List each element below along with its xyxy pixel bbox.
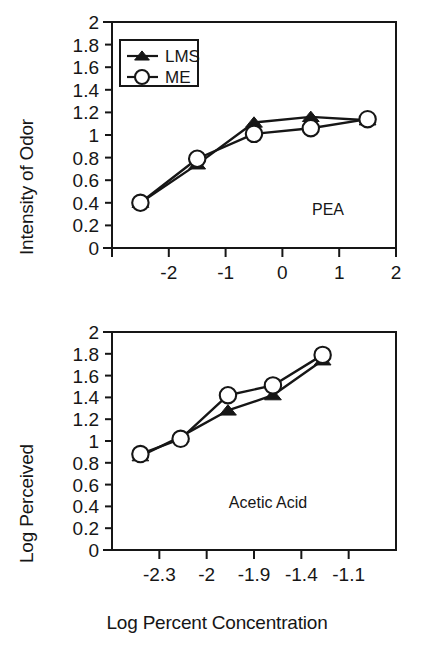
x-tick-label: -1 [217, 262, 234, 283]
y-tick-label: 1.6 [73, 57, 99, 78]
legend-label: ME [165, 68, 191, 87]
x-tick-label: 2 [391, 262, 402, 283]
marker-open-circle [135, 70, 149, 84]
y-tick-label: 0.4 [73, 496, 100, 517]
y-tick-label: 0.8 [73, 148, 99, 169]
axis-frame [112, 332, 396, 550]
y-tick-label: 0.4 [73, 193, 100, 214]
x-axis-title: Log Percent Concentration [0, 612, 434, 634]
marker-open-circle [132, 446, 148, 462]
figure-root: Intensity of Odor 00.20.40.60.811.21.41.… [0, 0, 434, 655]
marker-open-circle [220, 387, 236, 403]
chart-panel-acetic-acid: Log Perceived 00.20.40.60.811.21.41.61.8… [0, 318, 434, 598]
x-tick-label: 0 [277, 262, 288, 283]
x-tick-label: 1 [334, 262, 345, 283]
y-tick-label: 1 [88, 125, 99, 146]
marker-open-circle [265, 377, 281, 393]
y-tick-label: 2 [88, 322, 99, 343]
markers-me [132, 111, 376, 211]
plot-annotation: Acetic Acid [229, 494, 307, 511]
y-tick-label: 1.4 [73, 80, 100, 101]
y-tick-label: 1.8 [73, 35, 99, 56]
y-tick-label: 1.8 [73, 344, 99, 365]
y-tick-label: 0.6 [73, 170, 99, 191]
y-tick-label: 0 [88, 540, 99, 561]
y-tick-label: 1 [88, 431, 99, 452]
x-tick-label: -1.1 [332, 564, 365, 585]
x-axis-ticks: -2-1012 [112, 248, 401, 283]
y-tick-label: 1.4 [73, 387, 100, 408]
marker-open-circle [359, 111, 375, 127]
y-axis-ticks: 00.20.40.60.811.21.41.61.82 [73, 322, 112, 561]
y-tick-label: 0.2 [73, 518, 99, 539]
plot-area-pea: 00.20.40.60.811.21.41.61.82-2-1012PEALMS… [0, 0, 434, 310]
y-tick-label: 0.6 [73, 475, 99, 496]
x-tick-label: -2 [160, 262, 177, 283]
marker-open-circle [303, 120, 319, 136]
y-tick-label: 1.6 [73, 366, 99, 387]
y-tick-label: 1.2 [73, 409, 99, 430]
y-tick-label: 0 [88, 238, 99, 259]
y-tick-label: 0.2 [73, 215, 99, 236]
x-tick-label: -1.9 [238, 564, 271, 585]
marker-filled-triangle [220, 405, 237, 415]
plot-annotation: PEA [312, 201, 344, 218]
chart-panel-pea: Intensity of Odor 00.20.40.60.811.21.41.… [0, 0, 434, 310]
x-tick-label: -1.4 [285, 564, 318, 585]
marker-open-circle [132, 195, 148, 211]
y-tick-label: 0.8 [73, 453, 99, 474]
series-me [140, 355, 322, 454]
marker-open-circle [314, 347, 330, 363]
x-tick-label: -2.3 [143, 564, 176, 585]
marker-open-circle [189, 151, 205, 167]
y-axis-ticks: 00.20.40.60.811.21.41.61.82 [73, 12, 112, 259]
marker-open-circle [172, 431, 188, 447]
x-axis-ticks: -2.3-2-1.9-1.4-1.1 [143, 550, 365, 585]
plot-area-acetic-acid: 00.20.40.60.811.21.41.61.82-2.3-2-1.9-1.… [0, 318, 434, 608]
legend: LMSME [120, 40, 200, 87]
x-tick-label: -2 [198, 564, 215, 585]
y-tick-label: 2 [88, 12, 99, 33]
marker-open-circle [246, 126, 262, 142]
y-tick-label: 1.2 [73, 102, 99, 123]
legend-label: LMS [165, 47, 200, 66]
